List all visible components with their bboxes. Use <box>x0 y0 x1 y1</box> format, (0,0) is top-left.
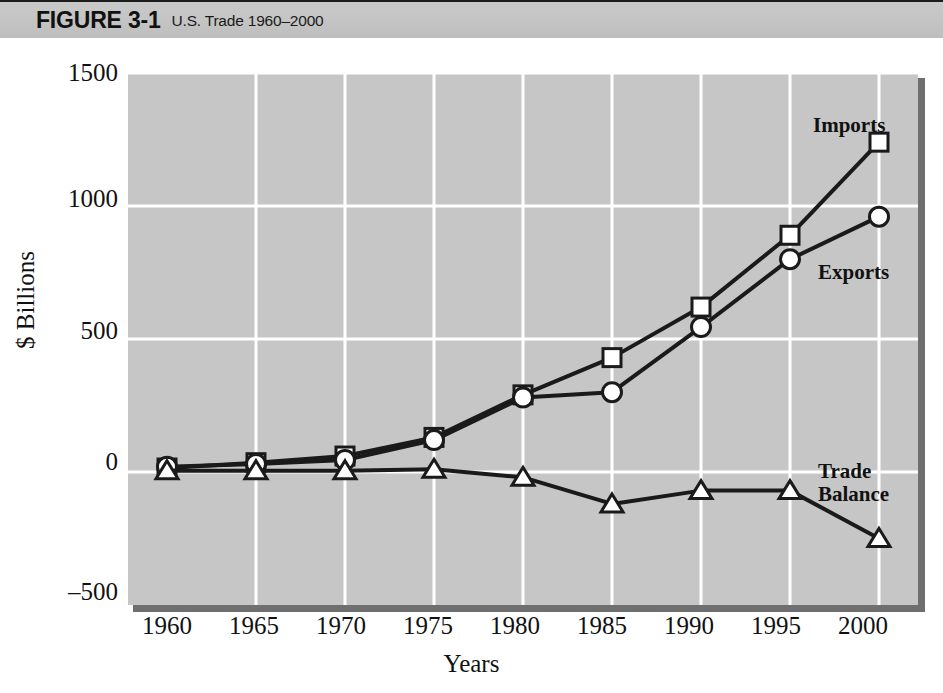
x-tick-1970: 1970 <box>296 612 386 640</box>
series-label-imports: Imports <box>813 114 885 137</box>
plot-shadow-right <box>918 78 925 610</box>
line-chart-svg <box>128 73 918 605</box>
x-tick-2000: 2000 <box>818 612 908 640</box>
plot-shadow-bottom <box>133 605 925 612</box>
x-tick-1965: 1965 <box>209 612 299 640</box>
figure-root: FIGURE 3-1 U.S. Trade 1960–2000 1500 100… <box>0 0 943 693</box>
x-tick-1975: 1975 <box>383 612 473 640</box>
x-tick-1990: 1990 <box>644 612 734 640</box>
x-tick-1995: 1995 <box>731 612 821 640</box>
x-axis-label: Years <box>0 650 943 678</box>
gridlines <box>128 73 918 605</box>
plot-area-wrapper: Imports Exports Trade Balance <box>128 73 918 605</box>
plot-area <box>128 73 918 605</box>
x-tick-1980: 1980 <box>470 612 560 640</box>
x-tick-1960: 1960 <box>122 612 212 640</box>
x-tick-1985: 1985 <box>557 612 647 640</box>
series-label-exports: Exports <box>818 261 889 284</box>
series-label-trade-balance: Trade Balance <box>818 460 889 505</box>
